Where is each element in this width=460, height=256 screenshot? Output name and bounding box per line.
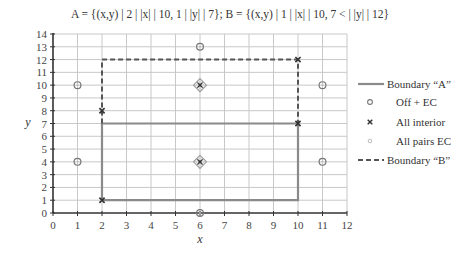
- x-tick-label: 7: [222, 219, 228, 231]
- x-axis-label: x: [196, 232, 203, 246]
- y-tick-label: 9: [42, 92, 48, 104]
- legend-label: All interior: [396, 116, 446, 128]
- x-tick-label: 1: [75, 219, 81, 231]
- x-tick-label: 4: [148, 219, 154, 231]
- x-tick-label: 0: [50, 219, 56, 231]
- y-tick-label: 0: [42, 207, 48, 219]
- x-tick-label: 9: [271, 219, 277, 231]
- x-tick-label: 10: [293, 219, 305, 231]
- legend-diamond-icon: [368, 139, 372, 143]
- x-tick-label: 8: [246, 219, 252, 231]
- chart-plot: 012345678910111201234567891011121314xyBo…: [0, 0, 460, 256]
- y-tick-label: 7: [42, 118, 48, 130]
- y-tick-label: 5: [42, 143, 48, 155]
- x-tick-label: 5: [173, 219, 179, 231]
- y-tick-label: 6: [42, 130, 48, 142]
- legend-x-icon: [368, 120, 373, 125]
- x-tick-label: 2: [99, 219, 105, 231]
- y-tick-label: 11: [36, 66, 47, 78]
- y-tick-label: 13: [36, 41, 48, 53]
- y-axis-label: y: [24, 115, 31, 129]
- legend-label: All pairs EC: [396, 135, 451, 147]
- y-tick-label: 1: [42, 194, 48, 206]
- legend-label: Boundary “B”: [387, 154, 450, 166]
- x-tick-label: 12: [342, 219, 353, 231]
- x-tick-label: 6: [197, 219, 203, 231]
- y-tick-label: 8: [42, 105, 48, 117]
- legend-label: Boundary “A”: [387, 78, 451, 90]
- y-tick-label: 14: [36, 28, 48, 40]
- legend-label: Off + EC: [396, 96, 437, 108]
- legend-circle-icon: [368, 100, 373, 105]
- x-tick-label: 3: [124, 219, 130, 231]
- legend: Boundary “A”Off + ECAll interiorAll pair…: [358, 78, 451, 166]
- x-tick-label: 11: [317, 219, 328, 231]
- y-tick-label: 3: [42, 169, 48, 181]
- y-tick-label: 2: [42, 181, 48, 193]
- y-tick-label: 12: [36, 54, 47, 66]
- y-tick-label: 4: [42, 156, 48, 168]
- y-tick-label: 10: [36, 79, 48, 91]
